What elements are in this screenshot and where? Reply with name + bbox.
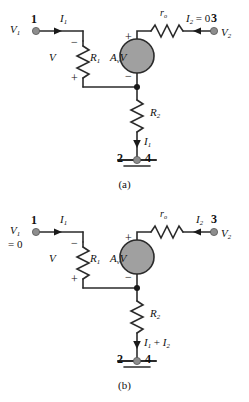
current-arrow-i2: [193, 28, 201, 35]
label-current-i2: I2 = 0: [186, 13, 210, 26]
resistor-ro-zigzag: [151, 226, 183, 238]
label-r1: R1: [90, 253, 100, 266]
figure-a: V1 1 I1 − + V R1 AvV + − ro I2 = 0 3 V2 …: [0, 0, 249, 201]
label-v: V: [49, 253, 56, 264]
label-r2: R2: [150, 107, 160, 120]
node-dot-1: [32, 27, 39, 34]
node-dot-3: [210, 27, 217, 34]
label-source-plus: +: [125, 232, 132, 244]
label-node1-value: = 0: [8, 239, 22, 250]
wire-source-to-ro: [137, 232, 151, 240]
label-node-number-1: 1: [31, 13, 37, 25]
label-node3-voltage: V2: [221, 27, 231, 40]
label-v-plus: +: [71, 273, 78, 285]
figure-b: V1 = 0 1 I1 − + V R1 AvV + − ro I2 3 V2 …: [0, 201, 249, 402]
node-dot-ground: [133, 156, 140, 163]
label-v-minus: −: [71, 237, 78, 249]
label-node-number-4: 4: [145, 353, 151, 365]
resistor-r2-zigzag: [131, 100, 143, 132]
label-r2: R2: [150, 308, 160, 321]
figure-b-caption: (b): [0, 379, 249, 391]
label-node1-voltage: V1: [10, 24, 20, 37]
junction-dot: [134, 84, 140, 90]
resistor-r1-zigzag: [77, 247, 89, 279]
current-arrow-bottom: [133, 341, 141, 349]
resistor-r2-zigzag: [131, 301, 143, 333]
label-v-minus: −: [71, 36, 78, 48]
label-r1: R1: [90, 52, 100, 65]
current-arrow-bottom: [133, 140, 141, 148]
label-node-number-3: 3: [211, 12, 217, 24]
label-current-i1: I1: [60, 214, 67, 227]
label-source-minus: −: [125, 271, 132, 283]
wire-source-to-ro: [137, 31, 151, 39]
label-ro: ro: [160, 209, 167, 220]
current-arrow-i2: [193, 229, 201, 236]
label-v-plus: +: [71, 72, 78, 84]
label-dependent-source-value: AvV: [110, 52, 127, 65]
label-v: V: [49, 52, 56, 63]
label-node-number-1: 1: [31, 214, 37, 226]
node-dot-1: [32, 228, 39, 235]
label-node-number-2: 2: [117, 353, 123, 365]
label-current-i2: I2: [196, 214, 203, 227]
label-current-i1: I1: [60, 13, 67, 26]
label-node-number-3: 3: [211, 213, 217, 225]
figure-a-caption: (a): [0, 178, 249, 190]
label-bottom-current: I1 + I2: [144, 337, 170, 350]
node-dot-3: [210, 228, 217, 235]
label-source-minus: −: [125, 70, 132, 82]
current-arrow-i1: [54, 28, 62, 35]
resistor-r1-zigzag: [77, 46, 89, 78]
label-node1-voltage: V1: [10, 225, 20, 238]
label-source-plus: +: [125, 31, 132, 43]
label-ro: ro: [160, 8, 167, 19]
label-node-number-2: 2: [117, 152, 123, 164]
current-arrow-i1: [54, 229, 62, 236]
resistor-ro-zigzag: [151, 25, 183, 37]
node-dot-ground: [133, 357, 140, 364]
label-node3-voltage: V2: [221, 228, 231, 241]
junction-dot: [134, 285, 140, 291]
label-node-number-4: 4: [145, 152, 151, 164]
label-bottom-current: I1: [144, 136, 151, 149]
label-dependent-source-value: AvV: [110, 253, 127, 266]
